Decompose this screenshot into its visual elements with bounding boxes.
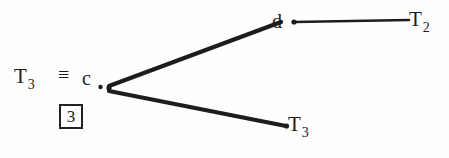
leaf-t2-subscript: 2 <box>423 20 430 35</box>
index-box: 3 <box>59 104 83 129</box>
leaf-t3-base: T <box>288 112 301 136</box>
equivalence-symbol: ≡ <box>58 64 69 84</box>
index-box-value: 3 <box>61 106 81 127</box>
edge-root-to-t3 <box>109 91 286 126</box>
root-marker-dot <box>98 85 102 89</box>
tree-diagram-figure: T3 ≡ c 3 d T2 T3 <box>0 0 449 158</box>
root-label-base: T <box>14 64 27 88</box>
node-c-label: c <box>82 68 91 88</box>
leaf-t3-subscript: 3 <box>302 125 309 140</box>
leaf-label-t2: T2 <box>409 9 429 30</box>
edge-root-to-d <box>109 22 281 86</box>
root-label: T3 <box>14 66 34 87</box>
root-label-subscript: 3 <box>28 77 35 92</box>
leaf-t2-base: T <box>409 7 422 31</box>
leaf-label-t3: T3 <box>288 114 308 135</box>
node-d-label: d <box>272 11 282 31</box>
edge-d-to-t2 <box>294 20 409 22</box>
